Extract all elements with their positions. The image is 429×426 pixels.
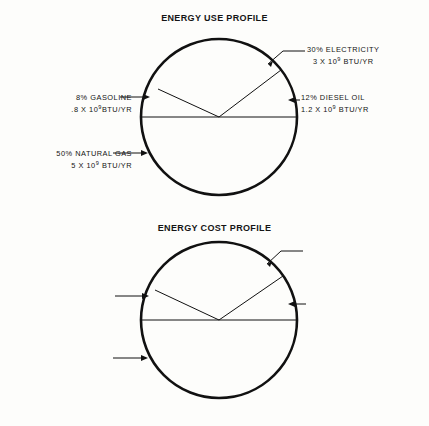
pie-divider-gasoline [158,89,219,117]
callout-use-electricity: 30% ELECTRICITY 3 X 109 BTU/YR [307,44,379,67]
callout-use-electricity-label: 30% ELECTRICITY [307,45,379,54]
energy-cost-chart: ENERGY COST PROFILE 29% NATURAL GAS [0,213,429,426]
callout-use-gasoline-label: 8% GASOLINE [76,93,132,102]
callout-use-diesel-label: 12% DIESEL OIL [301,93,365,102]
arrowhead-diesel [288,97,295,103]
pie-divider-diesel [155,290,219,320]
callout-use-gasoline: 8% GASOLINE .8 X 109BTU/YR [22,92,132,115]
callout-use-natural-gas: 50% NATURAL GAS 5 X 109 BTU/YR [14,148,132,171]
callout-use-natural-gas-label: 50% NATURAL GAS [56,149,132,158]
energy-use-chart: ENERGY USE PROFILE 30% ELECTRICIT [0,0,429,213]
callout-use-gasoline-value: .8 X 109BTU/YR [22,104,132,116]
pie-divider-electricity [219,70,281,117]
pie-divider-gasoline [219,276,283,320]
callout-use-diesel: 12% DIESEL OIL 1.2 X 109 BTU/YR [301,92,369,115]
callout-use-electricity-value: 3 X 109 BTU/YR [307,56,379,68]
arrowhead-electricity [141,355,148,361]
energy-cost-pie-graphic [0,213,429,426]
arrowhead-gasoline [288,301,295,307]
callout-use-diesel-value: 1.2 X 109 BTU/YR [301,104,369,116]
figure-page: ENERGY USE PROFILE 30% ELECTRICIT [0,0,429,426]
arrowhead-gasoline [143,94,150,100]
callout-use-natural-gas-value: 5 X 109 BTU/YR [14,160,132,172]
arrowhead-natural-gas [141,150,148,156]
